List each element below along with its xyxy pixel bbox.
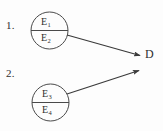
node-label-top-2: E3 xyxy=(42,89,52,99)
diagram-canvas: 1. E1 E2 2. E3 E4 D xyxy=(0,0,163,131)
node-label-top-2-subscript: 3 xyxy=(49,93,52,100)
item-index-2: 2. xyxy=(6,68,15,79)
arrow-node2-to-target xyxy=(67,71,139,95)
diagram-graphics xyxy=(0,0,163,131)
node-label-bottom-1-subscript: 2 xyxy=(48,37,51,44)
arrow-node1-to-target xyxy=(67,35,140,56)
item-index-1: 1. xyxy=(6,20,15,31)
node-label-top-1: E1 xyxy=(41,17,51,27)
node-label-top-2-base: E xyxy=(42,88,48,99)
target-node-label: D xyxy=(145,48,154,60)
node-label-top-1-base: E xyxy=(41,16,47,27)
node-label-bottom-1: E2 xyxy=(41,33,51,43)
node-label-bottom-2-subscript: 4 xyxy=(49,109,52,116)
node-label-bottom-2: E4 xyxy=(42,105,52,115)
node-label-top-1-subscript: 1 xyxy=(48,21,51,28)
node-label-bottom-2-base: E xyxy=(42,104,48,115)
node-label-bottom-1-base: E xyxy=(41,32,47,43)
